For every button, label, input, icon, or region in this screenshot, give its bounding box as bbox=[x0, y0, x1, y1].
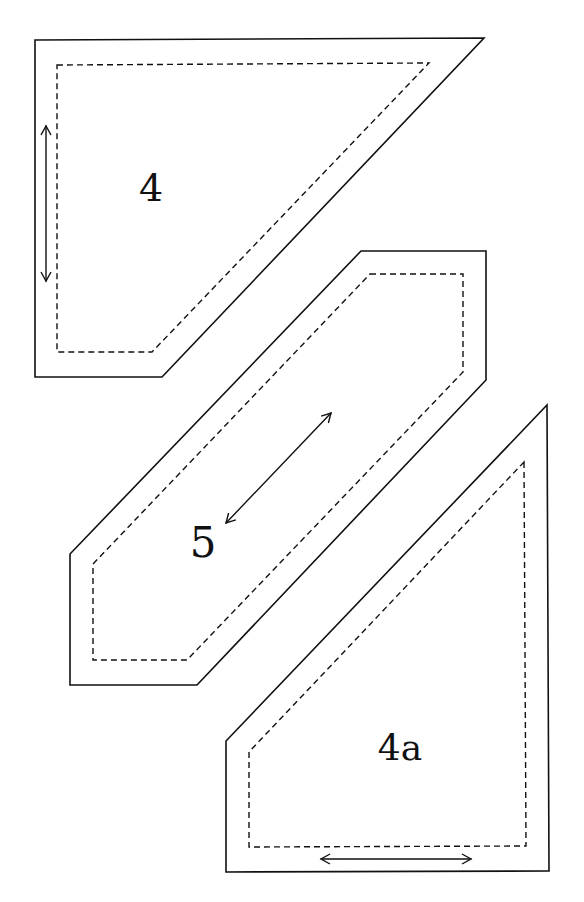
piece-5-sew-line bbox=[93, 274, 463, 660]
pattern-diagram: 4 5 4a bbox=[0, 0, 584, 902]
piece-5: 5 bbox=[70, 251, 486, 685]
piece-5-grain-arrow-icon bbox=[226, 413, 331, 523]
piece-4a-sew-line bbox=[249, 462, 526, 847]
piece-5-label: 5 bbox=[190, 518, 217, 567]
piece-4-sew-line bbox=[57, 63, 429, 352]
piece-4-label: 4 bbox=[139, 166, 163, 210]
piece-4a: 4a bbox=[226, 405, 549, 872]
piece-4-cut-line bbox=[35, 38, 484, 377]
piece-4a-label: 4a bbox=[378, 727, 422, 768]
piece-4a-cut-line bbox=[226, 405, 549, 872]
piece-4: 4 bbox=[35, 38, 484, 377]
